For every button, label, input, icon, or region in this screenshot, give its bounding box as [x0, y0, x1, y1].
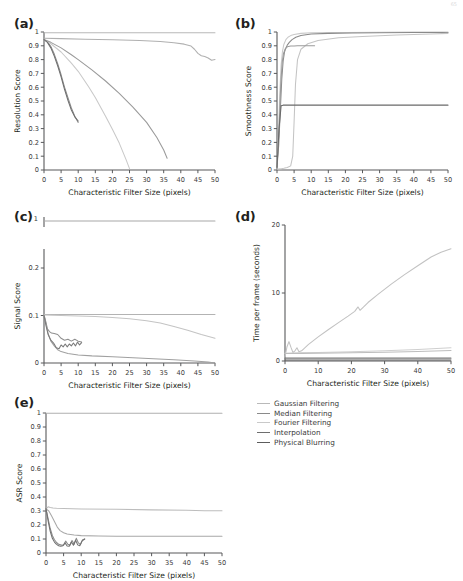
- svg-text:50: 50: [444, 176, 452, 184]
- svg-text:1: 1: [35, 28, 39, 36]
- svg-text:35: 35: [160, 369, 168, 377]
- svg-text:0.8: 0.8: [31, 437, 42, 445]
- svg-text:10: 10: [77, 559, 85, 567]
- panel-a-plot: 0510152025303540455000.10.20.30.40.50.60…: [0, 8, 232, 198]
- svg-text:0.9: 0.9: [29, 42, 40, 50]
- panel-d-plot: 0102030405001020Characteristic Filter Si…: [231, 203, 463, 393]
- svg-text:1: 1: [34, 215, 38, 223]
- svg-text:15: 15: [91, 176, 99, 184]
- svg-text:Resolution Score: Resolution Score: [13, 69, 22, 133]
- svg-text:Time per frame (seconds): Time per frame (seconds): [252, 244, 261, 343]
- svg-text:0.5: 0.5: [31, 479, 42, 487]
- panel-b-label: (b): [235, 16, 255, 31]
- panel-d-label: (d): [235, 209, 255, 224]
- svg-text:0: 0: [35, 359, 39, 367]
- svg-text:20: 20: [112, 559, 120, 567]
- svg-text:0.9: 0.9: [262, 42, 273, 50]
- svg-text:40: 40: [183, 559, 191, 567]
- legend-label-interpolation: Interpolation: [274, 428, 321, 437]
- svg-text:45: 45: [194, 176, 202, 184]
- svg-text:0: 0: [275, 176, 279, 184]
- svg-text:25: 25: [358, 176, 366, 184]
- svg-text:50: 50: [218, 559, 226, 567]
- svg-text:25: 25: [125, 176, 133, 184]
- svg-text:0.7: 0.7: [262, 70, 273, 78]
- svg-text:40: 40: [410, 176, 418, 184]
- page-corner-mark: 65: [451, 1, 457, 7]
- panel-b: (b) 0510152025303540455000.10.20.30.40.5…: [231, 8, 463, 198]
- svg-text:35: 35: [165, 559, 173, 567]
- panel-e-plot: 0510152025303540455000.10.20.30.40.50.60…: [0, 391, 240, 581]
- svg-text:ASR Score: ASR Score: [15, 463, 24, 502]
- svg-text:Characteristic Filter Size (pi: Characteristic Filter Size (pixels): [73, 571, 195, 580]
- legend-item-gaussian-filtering: Gaussian Filtering: [257, 399, 339, 409]
- svg-text:Signal Score: Signal Score: [13, 282, 22, 329]
- svg-text:0.5: 0.5: [262, 97, 273, 105]
- svg-text:5: 5: [59, 369, 63, 377]
- svg-text:0: 0: [276, 357, 280, 365]
- legend-swatch-interpolation: [257, 432, 270, 433]
- svg-text:0.2: 0.2: [29, 139, 40, 147]
- svg-text:Smoothness Score: Smoothness Score: [244, 65, 253, 136]
- legend: Gaussian Filtering Median Filtering Four…: [257, 399, 339, 447]
- svg-text:0.2: 0.2: [29, 264, 40, 272]
- panel-a-label: (a): [14, 16, 34, 31]
- svg-text:0.6: 0.6: [262, 84, 273, 92]
- svg-text:1: 1: [37, 409, 41, 417]
- svg-text:0: 0: [37, 549, 41, 557]
- svg-text:0.2: 0.2: [262, 139, 273, 147]
- svg-text:0.4: 0.4: [29, 111, 40, 119]
- svg-text:1: 1: [268, 28, 272, 36]
- svg-text:0: 0: [268, 166, 272, 174]
- svg-text:0.4: 0.4: [262, 111, 273, 119]
- svg-text:20: 20: [108, 369, 116, 377]
- svg-text:15: 15: [324, 176, 332, 184]
- svg-text:10: 10: [74, 369, 82, 377]
- svg-text:40: 40: [177, 176, 185, 184]
- svg-text:40: 40: [177, 369, 185, 377]
- svg-text:10: 10: [74, 176, 82, 184]
- svg-text:15: 15: [95, 559, 103, 567]
- panel-a: (a) 0510152025303540455000.10.20.30.40.5…: [0, 8, 232, 198]
- svg-text:0.5: 0.5: [29, 97, 40, 105]
- svg-text:0.9: 0.9: [31, 423, 42, 431]
- svg-text:Characteristic Filter Size (pi: Characteristic Filter Size (pixels): [301, 188, 423, 197]
- svg-text:25: 25: [125, 369, 133, 377]
- legend-label-gaussian-filtering: Gaussian Filtering: [274, 399, 339, 408]
- svg-text:Characteristic Filter Size (pi: Characteristic Filter Size (pixels): [68, 381, 190, 390]
- svg-text:0.3: 0.3: [31, 507, 42, 515]
- svg-text:5: 5: [292, 176, 296, 184]
- svg-text:0.1: 0.1: [29, 312, 40, 320]
- svg-text:0.8: 0.8: [29, 56, 40, 64]
- svg-text:50: 50: [447, 367, 455, 375]
- svg-text:0: 0: [42, 369, 46, 377]
- svg-text:0: 0: [42, 176, 46, 184]
- panel-c-label: (c): [14, 209, 33, 224]
- svg-text:50: 50: [211, 176, 219, 184]
- svg-text:45: 45: [200, 559, 208, 567]
- svg-text:20: 20: [108, 176, 116, 184]
- svg-text:30: 30: [147, 559, 155, 567]
- svg-text:Characteristic Filter Size (pi: Characteristic Filter Size (pixels): [307, 379, 429, 388]
- panel-c: (c) 10510152025303540455000.10.2Characte…: [0, 203, 232, 393]
- legend-swatch-gaussian-filtering: [257, 403, 270, 404]
- svg-text:25: 25: [130, 559, 138, 567]
- svg-text:35: 35: [160, 176, 168, 184]
- panel-d: (d) 0102030405001020Characteristic Filte…: [231, 203, 463, 393]
- svg-text:40: 40: [414, 367, 422, 375]
- legend-item-fourier-filtering: Fourier Filtering: [257, 418, 339, 428]
- svg-text:Characteristic Filter Size (pi: Characteristic Filter Size (pixels): [68, 188, 190, 197]
- legend-swatch-median-filtering: [257, 413, 270, 414]
- svg-text:10: 10: [314, 367, 322, 375]
- svg-text:0.7: 0.7: [29, 70, 40, 78]
- svg-text:10: 10: [272, 289, 280, 297]
- svg-text:0.6: 0.6: [29, 84, 40, 92]
- figure-panel-grid: 65 (a) 0510152025303540455000.10.20.30.4…: [0, 0, 463, 581]
- svg-text:15: 15: [91, 369, 99, 377]
- panel-b-plot: 0510152025303540455000.10.20.30.40.50.60…: [231, 8, 463, 198]
- legend-label-fourier-filtering: Fourier Filtering: [274, 418, 331, 427]
- svg-text:50: 50: [211, 369, 219, 377]
- svg-text:0.6: 0.6: [31, 465, 42, 473]
- svg-text:0.8: 0.8: [262, 56, 273, 64]
- legend-label-median-filtering: Median Filtering: [274, 409, 332, 418]
